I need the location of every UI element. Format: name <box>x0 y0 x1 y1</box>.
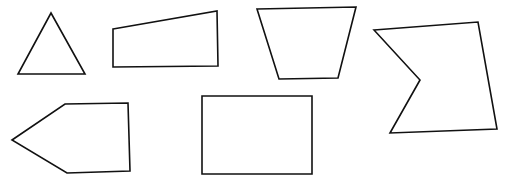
shape-left-pointing-pentagon <box>12 103 130 173</box>
shape-triangle <box>18 13 85 74</box>
figure-canvas <box>0 0 509 186</box>
shape-right-trapezoid <box>113 11 218 67</box>
shape-inverted-trapezoid <box>257 7 356 79</box>
shape-concave-arrow-polygon <box>374 22 497 133</box>
shapes-diagram <box>0 0 509 186</box>
shape-rectangle <box>202 96 312 174</box>
